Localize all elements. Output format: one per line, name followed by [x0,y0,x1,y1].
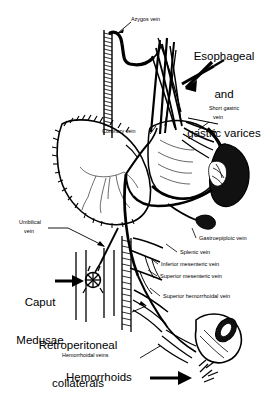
callout-esophageal-gastric-varices: Esophageal and gastric varices [183,24,265,153]
gastroepiploic-vein-vessel [168,204,215,229]
callout-esophageal-line3: gastric varices [183,127,265,140]
label-gastroepiploic-vein: Gastroepiploic vein [199,235,247,241]
azygos-vein-leader [118,22,131,33]
label-coronary-vein: Coronary vein [102,128,136,134]
label-umbilical-vein-line1: Umbilical [19,219,41,225]
label-superior-mesenteric-vein: Superior mesenteric vein [160,273,222,279]
callout-esophageal-line1: Esophageal [183,50,265,63]
spleen-organ [209,144,249,207]
hemorrhoidal-veins-vessels [158,330,196,363]
label-hemorrhoidal-veins: Hemorrhoidal veins [62,352,108,358]
label-short-gastric-vein-line1: Short gastric [209,105,239,111]
hemorrhoidal-veins-leader [140,346,160,358]
splenic-vein-leader [166,244,177,252]
umbilical-vein-leader [48,228,105,247]
hemorrhoids-arrow [150,371,192,385]
callout-esophageal-line2: and [183,88,265,101]
label-inferior-mesenteric-vein: Inferior mesenteric vein [161,261,219,267]
splenic-vein-vessel [126,174,212,206]
coronary-vein-vessel [126,128,157,174]
label-azygos-vein: Azygos vein [131,16,160,22]
callout-hemorrhoids: Hemorrhoids [66,371,150,384]
rectum-organ [196,314,242,363]
label-superior-hemorrhoidal-vein: Superior hemorrhoidal vein [163,293,230,299]
esophagus-organ [104,30,112,138]
label-splenic-vein: Splenic vein [180,249,210,255]
superior-hemorrhoidal-vein-leader [150,288,160,296]
gastroepiploic-vein-leader [192,228,196,238]
callout-retroperitoneal-line1: Retroperitoneal [22,339,134,352]
label-umbilical-vein-line2: vein [24,228,34,234]
label-short-gastric-vein-line2: vein [213,114,223,120]
esophageal-varices-vessels [151,38,182,134]
callout-caput-line1: Caput [8,296,72,309]
